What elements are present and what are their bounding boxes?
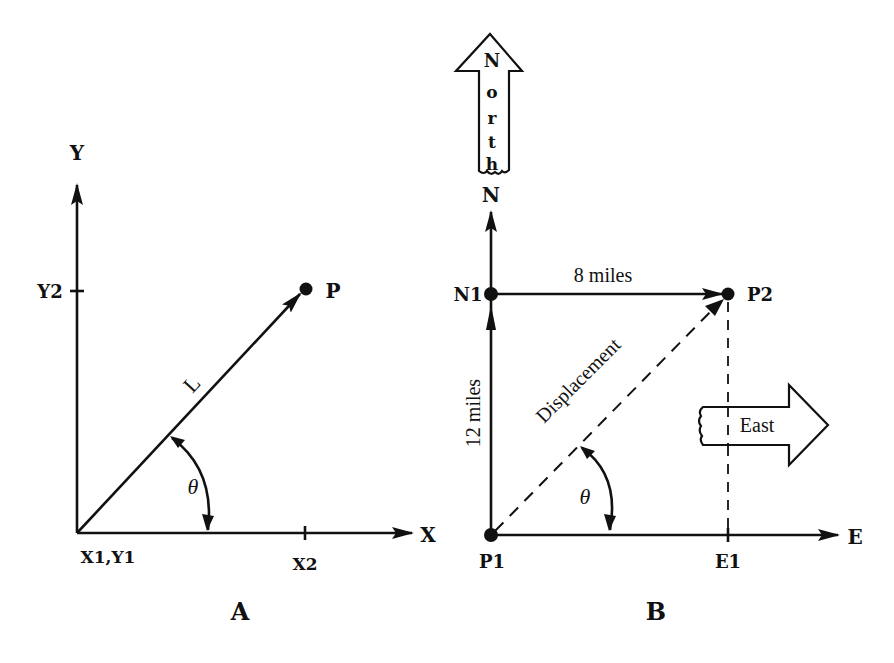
displacement-label: Displacement bbox=[531, 333, 625, 427]
diagram-canvas: Y X Y2 X2 X1,Y1 P L θ A N o r t h N bbox=[0, 0, 894, 663]
x2-label: X2 bbox=[292, 554, 317, 574]
e1-label: E1 bbox=[715, 551, 741, 572]
y-axis-label: Y bbox=[69, 141, 85, 165]
north-letter-n: N bbox=[484, 50, 500, 71]
n1-label: N1 bbox=[454, 284, 483, 305]
point-n1 bbox=[484, 287, 498, 301]
north-letter-h: h bbox=[486, 154, 498, 174]
caption-a: A bbox=[230, 597, 250, 626]
point-p bbox=[300, 283, 313, 296]
p2-label: P2 bbox=[747, 284, 773, 305]
north-letter-r: r bbox=[488, 108, 498, 128]
north-leg-arrowhead bbox=[486, 305, 496, 330]
caption-b: B bbox=[646, 597, 666, 626]
p1-label: P1 bbox=[479, 551, 505, 572]
diagram-a: Y X Y2 X2 X1,Y1 P L θ A bbox=[36, 141, 436, 626]
diagram-b: N o r t h N East N1 bbox=[454, 34, 863, 626]
arc-arrow-head-bottom bbox=[202, 514, 214, 531]
east-axis-label: E bbox=[847, 525, 862, 549]
north-leg-label: 12 miles bbox=[462, 379, 484, 448]
point-p-label: P bbox=[325, 279, 340, 303]
angle-theta-label-b: θ bbox=[580, 484, 591, 509]
east-leg-label: 8 miles bbox=[574, 264, 633, 286]
y2-label: Y2 bbox=[36, 281, 62, 302]
east-arrow-label: East bbox=[740, 414, 775, 436]
north-axis-label: N bbox=[482, 183, 500, 207]
north-letter-t: t bbox=[488, 132, 496, 152]
north-letter-o: o bbox=[486, 82, 497, 102]
origin-label: X1,Y1 bbox=[81, 547, 136, 567]
point-p2 bbox=[722, 288, 735, 301]
x-axis-label: X bbox=[420, 523, 436, 547]
vector-l-label: L bbox=[178, 370, 205, 397]
angle-theta-label: θ bbox=[188, 474, 199, 499]
arc-b-arrow-head-bottom bbox=[604, 514, 616, 531]
